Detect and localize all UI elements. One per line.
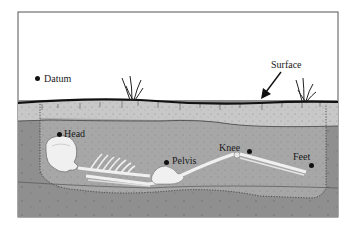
datum-label: Datum bbox=[44, 74, 71, 84]
pelvis-label: Pelvis bbox=[172, 156, 196, 166]
pelvis-point bbox=[164, 160, 169, 165]
head-point bbox=[57, 132, 62, 137]
head-label: Head bbox=[64, 129, 85, 139]
datum-point bbox=[35, 76, 40, 81]
surface-label: Surface bbox=[271, 60, 302, 70]
knee-label: Knee bbox=[219, 143, 240, 153]
feet-label: Feet bbox=[293, 152, 310, 162]
burial-diagram bbox=[0, 0, 351, 237]
knee-point bbox=[247, 149, 252, 154]
feet-point bbox=[309, 163, 314, 168]
